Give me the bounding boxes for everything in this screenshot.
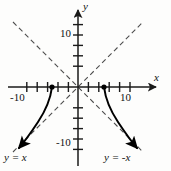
y-axis-label: y [83,1,88,12]
right-vertex-marker [101,84,106,89]
x-axis-tick-label-positive-ten: 10 [120,92,131,103]
asymptote-label-y-equals-x: y = x [4,152,27,163]
x-axis-label: x [154,72,159,83]
coordinate-plane-svg [0,0,171,171]
y-axis-tick-label-positive-ten: 10 [60,28,71,39]
asymptote-label-y-equals-negative-x: y = -x [104,152,130,163]
x-axis-tick-label-negative-ten: -10 [10,92,25,103]
y-axis-tick-label-negative-ten: -10 [56,137,71,148]
left-vertex-marker [49,84,54,89]
hyperbola-graph-figure: y x 10 -10 -10 10 y = x y = -x [0,0,171,171]
